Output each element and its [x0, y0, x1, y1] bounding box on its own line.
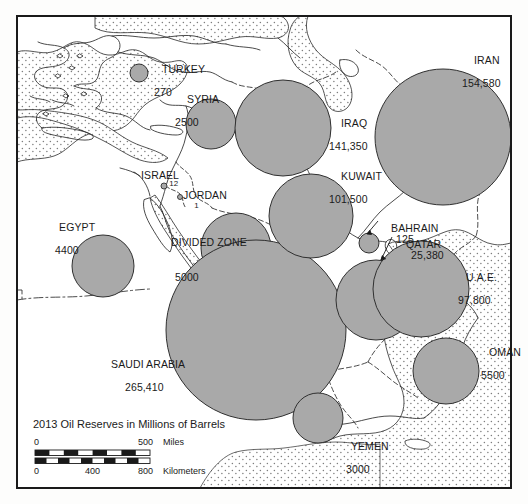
scale-miles-end: 500: [138, 437, 153, 447]
label-qatar: QATAR 25,380: [394, 227, 444, 273]
label-divided-zone-value: 5000: [171, 272, 225, 284]
scale-km-start: 0: [34, 466, 39, 476]
label-turkey-name: TURKEY: [162, 63, 205, 75]
label-kuwait-value: 101,500: [329, 194, 382, 206]
label-kuwait: KUWAIT 101,500: [329, 159, 382, 228]
label-oman-value: 5500: [477, 370, 521, 382]
scale-km-unit: Kilometers: [163, 466, 206, 476]
label-egypt-name: EGYPT: [59, 221, 95, 233]
label-saudi-arabia-name: SAUDI ARABIA: [111, 358, 185, 370]
label-iran: IRAN 154,580: [462, 43, 501, 112]
label-uae-name: U.A.E.: [466, 271, 497, 283]
label-syria-value: 2500: [175, 117, 219, 129]
label-jordan-value: 1: [194, 201, 199, 210]
label-egypt: EGYPT 4400: [47, 210, 95, 279]
label-egypt-value: 4400: [47, 245, 95, 257]
label-yemen: YEMEN 3000: [339, 429, 389, 498]
label-divided-zone: DIVIDED ZONE 5000: [171, 214, 225, 306]
label-yemen-name: YEMEN: [351, 440, 389, 452]
label-saudi-arabia: SAUDI ARABIA 265,410: [99, 347, 185, 416]
circle-bahrain: [359, 233, 379, 253]
label-iraq-value: 141,350: [329, 141, 368, 153]
scale-km-end: 800: [138, 466, 153, 476]
circle-yemen: [293, 393, 343, 443]
label-kuwait-name: KUWAIT: [341, 170, 382, 182]
label-saudi-arabia-value: 265,410: [99, 382, 185, 394]
label-qatar-value: 25,380: [406, 249, 444, 261]
label-syria-name: SYRIA: [187, 93, 219, 105]
label-iraq-name: IRAQ: [341, 117, 367, 129]
label-qatar-name: QATAR: [406, 238, 441, 250]
map-legend-title: 2013 Oil Reserves in Millions of Barrels: [33, 418, 225, 430]
label-uae-value: 97,800: [454, 295, 497, 307]
label-divided-zone-name: DIVIDED ZONE: [171, 237, 225, 249]
label-iran-name: IRAN: [474, 54, 500, 66]
label-iran-value: 154,580: [462, 78, 501, 90]
label-syria: SYRIA 2500: [175, 82, 219, 151]
oil-reserves-map: TURKEY 270 SYRIA 2500 ISRAEL 12 JORDAN 1…: [0, 0, 528, 504]
label-oman: OMAN 5500: [477, 335, 521, 404]
label-uae: U.A.E. 97,800: [454, 260, 497, 329]
scale-miles-start: 0: [34, 437, 39, 447]
circle-oman: [413, 338, 479, 404]
scale-miles-unit: Miles: [163, 437, 184, 447]
label-oman-name: OMAN: [489, 346, 521, 358]
label-yemen-value: 3000: [339, 464, 389, 476]
circle-turkey: [130, 64, 148, 82]
circle-iraq: [235, 80, 331, 176]
scale-km-mid: 400: [85, 466, 100, 476]
